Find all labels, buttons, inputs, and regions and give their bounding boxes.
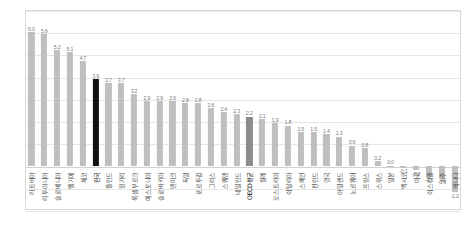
bar[interactable] xyxy=(285,126,291,166)
bar-value-label: 2.6 xyxy=(208,102,215,108)
bar[interactable] xyxy=(387,166,393,167)
bar[interactable] xyxy=(221,112,227,165)
bar[interactable] xyxy=(92,79,98,166)
category-label: OECD평균 xyxy=(245,172,254,200)
bar-value-label: 2.2 xyxy=(246,110,253,116)
bar[interactable] xyxy=(298,132,304,165)
bar[interactable] xyxy=(118,83,124,165)
category-label: 프랑스 xyxy=(360,172,369,189)
bar[interactable] xyxy=(131,94,137,165)
bar[interactable] xyxy=(413,166,419,170)
bar-value-label: 4.7 xyxy=(79,55,86,61)
bar-value-label: 5.1 xyxy=(67,46,74,52)
bar-value-label: 3.7 xyxy=(118,77,125,83)
category-label: 호주 xyxy=(437,172,446,183)
category-label: 핀란드 xyxy=(309,172,318,189)
category-label-slot: 스위스 xyxy=(371,172,384,228)
category-label-slot: 영국 xyxy=(320,172,333,228)
category-label-slot: 그리스 xyxy=(205,172,218,228)
category-label-slot: OECD평균 xyxy=(243,172,256,228)
bar[interactable] xyxy=(336,137,342,166)
category-label-slot: 헝가리 xyxy=(115,172,128,228)
bar[interactable] xyxy=(233,114,239,165)
category-label: 노르웨이 xyxy=(347,172,356,195)
bar[interactable] xyxy=(169,101,175,165)
bar-value-label: 2.9 xyxy=(169,95,176,101)
bar-value-label: 0.9 xyxy=(349,139,356,145)
bar-value-label: 1.5 xyxy=(310,126,317,132)
bar[interactable] xyxy=(310,132,316,165)
bar-value-label: 6.0 xyxy=(28,26,35,32)
bar[interactable] xyxy=(208,108,214,166)
bar[interactable] xyxy=(259,119,265,166)
category-label-slot: 한국 xyxy=(89,172,102,228)
category-label: 벨기에 xyxy=(65,172,74,189)
bar[interactable] xyxy=(195,103,201,165)
category-label-slot: 벨기에 xyxy=(63,172,76,228)
bar[interactable] xyxy=(54,50,60,166)
bar[interactable] xyxy=(80,61,86,165)
category-label-slot: 프랑스 xyxy=(358,172,371,228)
category-label-slot: 리투아니아 xyxy=(38,172,51,228)
category-label: 스위스 xyxy=(373,172,382,189)
bar-value-label: 2.9 xyxy=(144,95,151,101)
bar[interactable] xyxy=(272,123,278,165)
bar[interactable] xyxy=(105,83,111,165)
bar-value-label: 0.2 xyxy=(374,155,381,161)
category-label: 독일 xyxy=(181,172,190,183)
category-label: 그리스 xyxy=(206,172,215,189)
bar[interactable] xyxy=(67,52,73,165)
bar[interactable] xyxy=(246,117,252,166)
category-label: 슬로바키아 xyxy=(155,172,164,201)
category-label-slot: 노르웨이 xyxy=(346,172,359,228)
category-label-slot: 호주 xyxy=(435,172,448,228)
bar[interactable] xyxy=(349,146,355,166)
category-label-slot: 슬로베니아 xyxy=(51,172,64,228)
category-label-slot: 핀란드 xyxy=(307,172,320,228)
bar[interactable] xyxy=(375,161,381,165)
bar[interactable] xyxy=(28,32,34,165)
category-label-slot: 폴란드 xyxy=(102,172,115,228)
category-label-slot: 체코 xyxy=(76,172,89,228)
bar-value-label: 2.3 xyxy=(233,108,240,114)
category-label: 오스트리아 xyxy=(271,172,280,201)
category-label-slot: 독일 xyxy=(179,172,192,228)
bar-value-label: 2.4 xyxy=(220,106,227,112)
bar[interactable] xyxy=(323,134,329,165)
category-label: 포르투갈 xyxy=(194,172,203,195)
category-label-slot: 일본 xyxy=(384,172,397,228)
category-label: 체코 xyxy=(78,172,87,183)
category-label-slot: 캐나다 xyxy=(448,172,461,228)
category-label: 일본 xyxy=(386,172,395,183)
bar-value-label: 3.9 xyxy=(92,73,99,79)
category-label-slot: 이탈리아 xyxy=(281,172,294,228)
category-label: 룩셈부르크 xyxy=(129,172,138,201)
bar-value-label: 0.0 xyxy=(387,159,394,165)
category-label: 네덜란드 xyxy=(232,172,241,195)
bar-value-label: 3.2 xyxy=(131,88,138,94)
category-label-slot: 칠레 xyxy=(256,172,269,228)
category-label: 칠레 xyxy=(258,172,267,183)
category-label-slot: 덴마크 xyxy=(166,172,179,228)
category-axis: 라트비아리투아니아슬로베니아벨기에체코한국폴란드헝가리룩셈부르크에스토니아슬로바… xyxy=(25,172,461,228)
bar-value-label: 1.3 xyxy=(336,130,343,136)
category-label-slot: 스웨덴 xyxy=(217,172,230,228)
category-label: 라트비아 xyxy=(27,172,36,195)
bar-value-label: 1.4 xyxy=(323,128,330,134)
bar-value-label: 5.9 xyxy=(41,28,48,34)
bar[interactable] xyxy=(182,103,188,165)
category-label-slot: 네덜란드 xyxy=(230,172,243,228)
category-label: 스웨덴 xyxy=(219,172,228,189)
bar[interactable] xyxy=(157,101,163,165)
category-label-slot: 미국 xyxy=(410,172,423,228)
category-label: 스페인 xyxy=(296,172,305,189)
category-label: 헝가리 xyxy=(117,172,126,189)
bar-value-label: 2.8 xyxy=(195,97,202,103)
bar[interactable] xyxy=(362,148,368,166)
bar[interactable] xyxy=(144,101,150,165)
bar[interactable] xyxy=(41,34,47,165)
category-label-slot: 라트비아 xyxy=(25,172,38,228)
category-label-slot: 에스토니아 xyxy=(140,172,153,228)
category-label: 덴마크 xyxy=(168,172,177,189)
category-label-slot: 아일랜드 xyxy=(333,172,346,228)
